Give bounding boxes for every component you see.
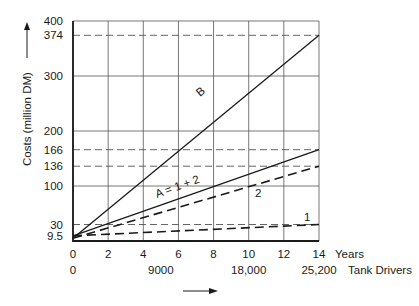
x-secondary-tick-label: 25,200	[301, 264, 336, 276]
x-tick-label: 12	[277, 248, 290, 260]
y-axis-label: Costs (million DM)	[21, 22, 33, 166]
series-labels: B A = 1 + 2 2 1	[154, 84, 311, 223]
y-tick-label: 374	[44, 29, 64, 41]
y-tick-label: 9.5	[47, 230, 63, 242]
series-line-a-1-2	[73, 150, 319, 236]
x-tick-label: 2	[105, 248, 111, 260]
series-line-1	[73, 225, 319, 236]
x-secondary-tick-label: 9000	[148, 264, 174, 276]
x-tick-label: 8	[210, 248, 216, 260]
x-axis-arrow	[183, 288, 218, 294]
y-tick-label: 30	[50, 219, 63, 231]
data-series	[73, 35, 319, 238]
y-tick-label: 100	[44, 180, 63, 192]
x-tick-label: 0	[70, 248, 76, 260]
tick-labels: 024681012140900018,00025,200400374300200…	[44, 15, 337, 276]
y-tick-label: 166	[44, 144, 63, 156]
y-tick-label: 400	[44, 15, 63, 27]
y-axis-arrow-icon	[24, 22, 30, 30]
cost-chart: 024681012140900018,00025,200400374300200…	[0, 0, 419, 306]
y-tick-label: 200	[44, 125, 63, 137]
x-tick-label: 14	[313, 248, 326, 260]
x-tick-label: 10	[242, 248, 255, 260]
series-line-b	[73, 35, 319, 238]
series-label-b: B	[194, 84, 208, 98]
x-axis-arrow-icon	[209, 288, 218, 294]
reference-dashed-lines	[73, 35, 319, 224]
x-secondary-tick-label: 0	[70, 264, 76, 276]
x-tick-label: 6	[175, 248, 181, 260]
x-axis-label-drivers: Tank Drivers	[348, 264, 412, 276]
series-label-a: A = 1 + 2	[154, 173, 201, 200]
x-secondary-tick-label: 18,000	[231, 264, 266, 276]
axes	[73, 21, 319, 242]
y-tick-label: 136	[44, 160, 63, 172]
y-tick-label: 300	[44, 70, 63, 82]
x-tick-label: 4	[140, 248, 147, 260]
x-axis-label-years: Years	[335, 248, 364, 260]
series-label-2: 2	[255, 187, 261, 199]
series-label-1: 1	[304, 211, 310, 223]
y-axis-title: Costs (million DM)	[21, 72, 33, 166]
